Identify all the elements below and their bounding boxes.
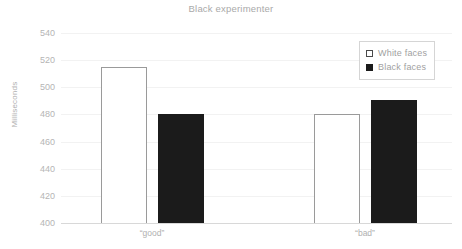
y-tick-label: 440	[21, 164, 55, 174]
bar	[371, 100, 417, 224]
y-tick-label: 540	[21, 28, 55, 38]
y-axis-tick-labels: 400420440460480500520540	[0, 0, 55, 249]
y-tick-label: 480	[21, 109, 55, 119]
bar	[158, 114, 204, 223]
legend-label: White faces	[378, 48, 427, 58]
y-tick-label: 400	[21, 218, 55, 228]
gridline	[61, 33, 452, 34]
y-tick-label: 520	[21, 55, 55, 65]
chart-figure: Black experimenter Milliseconds 40042044…	[0, 0, 462, 249]
y-tick-label: 420	[21, 191, 55, 201]
legend-label: Black faces	[378, 62, 426, 72]
bar	[101, 67, 147, 223]
y-tick-label: 460	[21, 137, 55, 147]
bar	[314, 114, 360, 223]
x-tick-label: “good”	[140, 228, 165, 238]
legend-item[interactable]: Black faces	[366, 60, 427, 74]
chart-title: Black experimenter	[0, 3, 462, 14]
legend-item[interactable]: White faces	[366, 46, 427, 60]
hollow-square-icon	[366, 50, 373, 57]
y-tick-label: 500	[21, 82, 55, 92]
x-tick-label: “bad”	[355, 228, 375, 238]
chart-legend[interactable]: White facesBlack faces	[359, 41, 435, 80]
filled-square-icon	[366, 64, 373, 71]
x-axis-line	[61, 223, 452, 224]
